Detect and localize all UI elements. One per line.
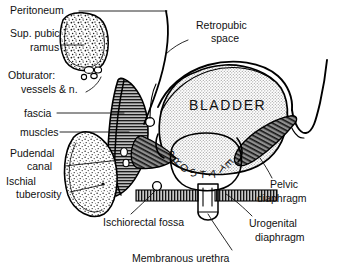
label-urogenital-diaphragm-line2: diaphragm xyxy=(255,231,305,243)
label-pelvic-diaphragm-line2: diaphragm xyxy=(257,192,307,204)
label-pelvic-diaphragm-line1: Pelvic xyxy=(270,178,298,190)
label-bladder: BLADDER xyxy=(189,97,266,113)
label-ischial-tuberosity-line2: tuberosity xyxy=(16,188,62,200)
label-ischial-tuberosity-line1: Ischial xyxy=(6,175,36,187)
obturator-vessel-2 xyxy=(94,67,101,73)
label-urogenital-diaphragm-line1: Urogenital xyxy=(249,217,297,229)
label-pudendal-canal-line2: canal xyxy=(27,160,52,172)
label-sup-pubic-ramus-line1: Sup. pubic xyxy=(10,27,60,39)
pudendal-canal-vessel xyxy=(121,148,128,157)
label-muscles: muscles xyxy=(20,126,59,138)
obturator-vessel-3 xyxy=(81,74,86,79)
anatomy-figure: Peritoneum Sup. pubic ramus Obturator: v… xyxy=(0,0,338,268)
label-retropubic-space-line2: space xyxy=(211,32,239,44)
label-ischiorectal-fossa: Ischiorectal fossa xyxy=(103,216,184,228)
label-peritoneum: Peritoneum xyxy=(10,4,64,16)
label-membranous-urethra: Membranous urethra xyxy=(132,252,230,264)
pelvis-coronal-section-svg: Peritoneum Sup. pubic ramus Obturator: v… xyxy=(0,0,338,268)
urogenital-diaphragm-left-band xyxy=(136,190,198,201)
label-sup-pubic-ramus-line2: ramus xyxy=(30,41,59,53)
label-retropubic-space-line1: Retropubic xyxy=(196,19,247,31)
label-obturator-line2: vessels & n. xyxy=(21,83,78,95)
pudendal-canal-nerve xyxy=(123,159,129,167)
obturator-vessel-1 xyxy=(84,67,93,74)
prostate-letter-4: T xyxy=(200,168,207,180)
label-pudendal-canal-line1: Pudendal xyxy=(10,147,54,159)
ischiorectal-fossa-marker-left xyxy=(146,118,155,127)
label-fascia: fascia xyxy=(24,107,52,119)
obturator-nerve xyxy=(91,73,97,78)
ischiorectal-fossa-marker-lower xyxy=(153,182,162,191)
label-obturator-line1: Obturator: xyxy=(8,69,55,81)
